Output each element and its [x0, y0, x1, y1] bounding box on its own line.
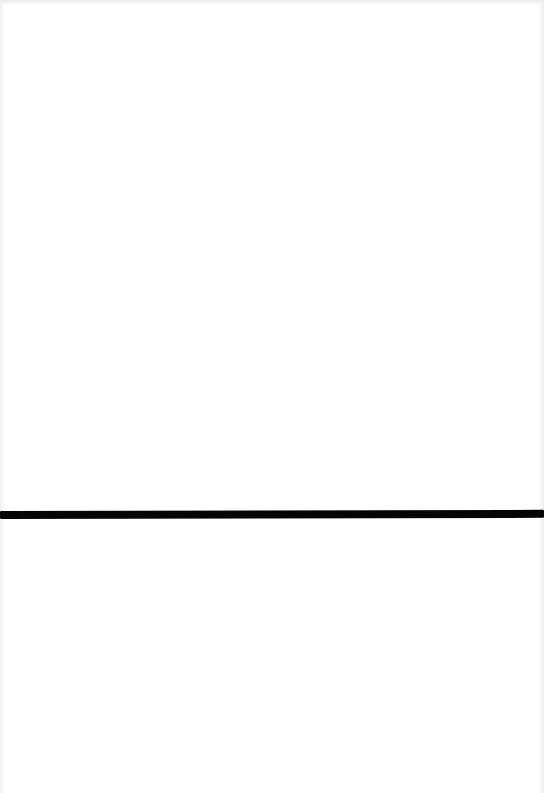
scanned-page	[0, 0, 544, 793]
horizontal-divider-rule	[0, 510, 544, 519]
scan-shadow-right	[538, 0, 544, 793]
scan-shadow-top	[0, 0, 544, 6]
scan-shadow-left	[0, 0, 5, 793]
